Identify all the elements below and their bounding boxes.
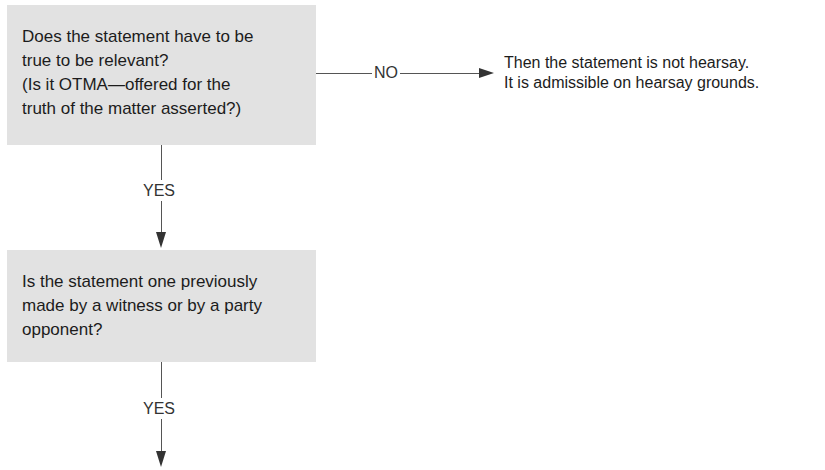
decision-text-line: (Is it OTMA—offered for the — [22, 73, 301, 97]
connector-yes-2-line-top — [161, 362, 162, 398]
connector-yes-1-line-top — [161, 145, 162, 180]
arrowhead-down-icon — [156, 451, 166, 467]
connector-no-line-left — [316, 73, 372, 74]
decision-text-line: made by a witness or by a party — [22, 294, 301, 318]
connector-no-line-right — [400, 73, 480, 74]
decision-text-line: truth of the matter asserted?) — [22, 97, 301, 121]
outcome-not-hearsay: Then the statement is not hearsay. It is… — [504, 53, 759, 93]
arrowhead-down-icon — [156, 232, 166, 248]
outcome-text-line: It is admissible on hearsay grounds. — [504, 73, 759, 93]
connector-yes-1-line-bottom — [161, 201, 162, 234]
decision-text-line: true to be relevant? — [22, 49, 301, 73]
decision-box-prior-statement: Is the statement one previously made by … — [7, 250, 316, 362]
edge-label-yes-1: YES — [143, 182, 175, 200]
edge-label-no: NO — [374, 64, 398, 82]
decision-text-line: opponent? — [22, 318, 301, 342]
edge-label-yes-2: YES — [143, 400, 175, 418]
connector-yes-2-line-bottom — [161, 419, 162, 453]
decision-text-line: Is the statement one previously — [22, 270, 301, 294]
decision-box-otma: Does the statement have to be true to be… — [7, 5, 316, 145]
arrowhead-right-icon — [479, 68, 494, 78]
outcome-text-line: Then the statement is not hearsay. — [504, 53, 759, 73]
decision-text-line: Does the statement have to be — [22, 25, 301, 49]
